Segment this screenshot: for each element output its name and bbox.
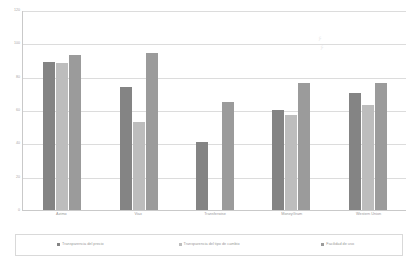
bar[interactable] bbox=[222, 102, 234, 210]
bar[interactable] bbox=[362, 105, 374, 210]
y-axis-tick-label: 60 bbox=[16, 109, 20, 113]
y-axis-tick-label: 40 bbox=[16, 143, 20, 147]
bar[interactable] bbox=[375, 83, 387, 210]
y-axis-tick-label: 100 bbox=[14, 43, 20, 47]
chart-legend: Transparencia del precioTransparencia de… bbox=[15, 234, 403, 256]
bar[interactable] bbox=[196, 142, 208, 210]
x-axis-labels: AzimoViaxTransferwiseMoneyGramWestern Un… bbox=[23, 213, 407, 217]
legend-label: Transparencia del precio bbox=[62, 243, 104, 247]
bar[interactable] bbox=[69, 55, 81, 210]
bar-group bbox=[100, 11, 176, 210]
bar[interactable] bbox=[298, 83, 310, 210]
y-axis-tick-label: 120 bbox=[14, 9, 20, 13]
x-axis-category-label: Azimo bbox=[23, 213, 100, 217]
x-axis-category-label: MoneyGram bbox=[253, 213, 330, 217]
bar[interactable] bbox=[120, 87, 132, 210]
legend-label: Facilidad de uso bbox=[326, 243, 354, 247]
bar[interactable] bbox=[349, 93, 361, 210]
bar-group bbox=[177, 11, 253, 210]
bar-group bbox=[24, 11, 100, 210]
legend-swatch-icon bbox=[179, 243, 182, 246]
legend-item[interactable]: Transparencia del precio bbox=[16, 243, 145, 247]
bar-groups bbox=[24, 11, 406, 210]
y-axis-tick-label: 20 bbox=[16, 176, 20, 180]
legend-item[interactable]: Transparencia del tipo de cambio bbox=[145, 243, 274, 247]
x-axis-category-label: Western Union bbox=[330, 213, 407, 217]
bar[interactable] bbox=[56, 63, 68, 210]
bar-group bbox=[253, 11, 329, 210]
bar[interactable] bbox=[285, 115, 297, 210]
legend-swatch-icon bbox=[57, 243, 60, 246]
y-axis-tick-label: 0 bbox=[18, 209, 20, 213]
bar-chart: ۶ ۶ 020406080100120 AzimoViaxTransferwis… bbox=[0, 0, 418, 277]
x-axis-category-label: Viax bbox=[100, 213, 177, 217]
plot-area: 020406080100120 bbox=[22, 11, 406, 211]
legend-swatch-icon bbox=[321, 243, 324, 246]
x-axis-category-label: Transferwise bbox=[177, 213, 254, 217]
bar[interactable] bbox=[146, 53, 158, 210]
legend-label: Transparencia del tipo de cambio bbox=[184, 243, 240, 247]
bar[interactable] bbox=[43, 62, 55, 210]
legend-item[interactable]: Facilidad de uso bbox=[273, 243, 402, 247]
bar[interactable] bbox=[133, 122, 145, 210]
bar[interactable] bbox=[272, 110, 284, 210]
y-axis-tick-label: 80 bbox=[16, 76, 20, 80]
bar-group bbox=[330, 11, 406, 210]
